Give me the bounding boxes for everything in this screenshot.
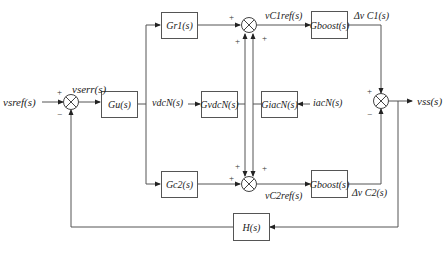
sign-bot-left: + [229, 174, 234, 183]
label-vdcn: vdcN(s) [152, 98, 183, 108]
block-gvdcn: GvdcN(s) [201, 91, 238, 118]
sign-top-bl: + [235, 37, 240, 46]
connection-lines [0, 0, 445, 253]
sign-top-br: + [262, 34, 267, 43]
sign-left-minus: − [57, 110, 62, 119]
label-output-vss: vss(s) [417, 96, 442, 107]
sign-right-minus: − [367, 110, 372, 119]
sign-right-plus: + [367, 87, 372, 96]
block-h: H(s) [233, 213, 270, 241]
block-gboost-1: Gboost(s) [311, 11, 348, 39]
label-dvc1: Δv C1(s) [354, 11, 389, 21]
block-diagram: Gu(s) Gr1(s) Gc2(s) GvdcN(s) GiacN(s) Gb… [0, 0, 445, 253]
sign-bot-tl: + [235, 162, 240, 171]
label-vc2ref: vC2ref(s) [265, 191, 302, 201]
sign-top-left: + [229, 13, 234, 22]
block-gr1: Gr1(s) [161, 12, 198, 39]
label-input-vsref: vsref(s) [3, 97, 36, 108]
block-gboost-2: Gboost(s) [311, 170, 348, 198]
block-gc2: Gc2(s) [161, 171, 198, 198]
label-vc1ref: vC1ref(s) [265, 11, 302, 21]
label-error-vserr: vserr(s) [72, 84, 106, 95]
block-gu: Gu(s) [101, 91, 138, 118]
block-giacn: GiacN(s) [261, 91, 298, 118]
label-dvc2: Δv C2(s) [352, 188, 387, 198]
label-iacn: iacN(s) [313, 98, 342, 108]
sign-left-plus: + [57, 88, 62, 97]
sign-bot-tr: + [262, 164, 267, 173]
